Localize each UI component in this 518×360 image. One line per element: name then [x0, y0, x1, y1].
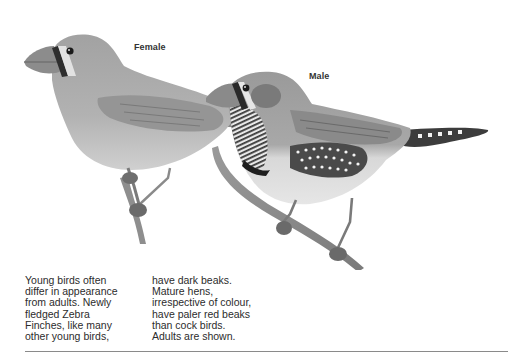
cheek-patch — [251, 84, 281, 108]
caption-column-1: Young birds often differ in appearance f… — [25, 275, 145, 342]
caption-column-2: have dark beaks. Mature hens, irrespecti… — [152, 275, 277, 342]
male-eye — [243, 85, 250, 92]
male-tail — [398, 128, 488, 147]
male-label: Male — [309, 71, 329, 81]
female-eye — [66, 47, 73, 54]
male-finch — [206, 72, 488, 261]
zebra-finch-illustration — [0, 0, 518, 270]
divider-line — [25, 351, 508, 352]
female-label: Female — [134, 42, 166, 52]
finch-drawing — [0, 0, 518, 270]
